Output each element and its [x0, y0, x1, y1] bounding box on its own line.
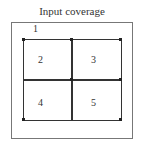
region-label-5: 5: [91, 97, 96, 108]
region-label-2: 2: [38, 54, 43, 65]
corner-dot: [22, 118, 25, 121]
corner-dot: [119, 38, 122, 41]
corner-dot: [70, 78, 73, 81]
corner-dot: [119, 78, 122, 81]
region-label-1: 1: [33, 23, 38, 34]
region-label-4: 4: [38, 97, 43, 108]
region-label-3: 3: [91, 54, 96, 65]
corner-dot: [119, 118, 122, 121]
diagram-title: Input coverage: [0, 5, 144, 18]
corner-dot: [70, 38, 73, 41]
corner-dot: [22, 38, 25, 41]
